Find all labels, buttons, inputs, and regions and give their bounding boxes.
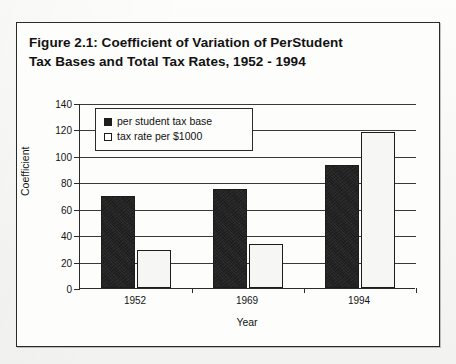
- x-axis-title: Year: [79, 316, 415, 328]
- x-category-label-1969: 1969: [236, 295, 258, 306]
- x-category-label-1994: 1994: [348, 295, 370, 306]
- x-tick-1969: [304, 288, 305, 293]
- scan-header-fragment: a. nearving data 1952: [128, 0, 298, 7]
- chart-legend: per student tax base tax rate per $1000: [95, 108, 253, 151]
- y-tick-label-0: 0: [66, 284, 72, 295]
- bar-1969-series-0: [213, 189, 247, 288]
- y-tick-20: [74, 263, 80, 264]
- y-tick-40: [74, 236, 80, 237]
- gridline-140: [80, 104, 416, 105]
- y-tick-80: [74, 183, 80, 184]
- legend-label-0: per student tax base: [117, 114, 212, 129]
- x-tick-1952: [192, 288, 193, 293]
- y-tick-label-80: 80: [61, 178, 72, 189]
- y-tick-100: [74, 157, 80, 158]
- figure-frame: Figure 2.1: Coefficient of Variation of …: [16, 22, 440, 347]
- y-tick-label-100: 100: [55, 151, 72, 162]
- y-tick-label-60: 60: [61, 204, 72, 215]
- chart-plot-wrapper: Coefficient 020406080100120140 195219691…: [17, 23, 441, 348]
- bar-1994-series-1: [361, 132, 395, 288]
- legend-item-0: per student tax base: [104, 114, 244, 129]
- y-tick-140: [74, 104, 80, 105]
- y-tick-label-140: 140: [55, 99, 72, 110]
- x-tick-1994: [416, 288, 417, 293]
- y-tick-label-120: 120: [55, 125, 72, 136]
- y-tick-60: [74, 210, 80, 211]
- y-tick-120: [74, 130, 80, 131]
- white-square-icon: [104, 133, 112, 141]
- bar-1969-series-1: [249, 244, 283, 288]
- bar-1952-series-0: [101, 196, 135, 289]
- bar-1952-series-1: [137, 250, 171, 288]
- y-tick-label-20: 20: [61, 257, 72, 268]
- legend-item-1: tax rate per $1000: [104, 129, 244, 144]
- x-category-label-1952: 1952: [124, 295, 146, 306]
- y-tick-label-40: 40: [61, 231, 72, 242]
- y-axis-title: Coefficient: [19, 147, 31, 196]
- black-square-icon: [104, 118, 112, 126]
- y-tick-0: [74, 289, 80, 290]
- bar-1994-series-0: [325, 165, 359, 288]
- legend-label-1: tax rate per $1000: [117, 129, 202, 144]
